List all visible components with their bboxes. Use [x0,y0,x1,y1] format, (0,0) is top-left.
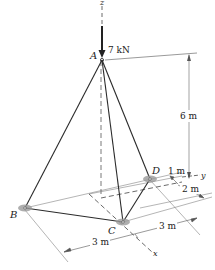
truss-members [25,60,150,222]
load-arrow [99,26,106,58]
member-bc [25,208,123,222]
point-c-label: C [108,225,116,236]
point-a-label: A [89,50,97,61]
d-depth-label: 2 m [182,184,200,194]
y-axis-label: y [200,171,206,180]
member-ab [25,60,102,208]
tripod-diagram: z 7 kN A 6 m x y [0,0,215,270]
span-right-label: 3 m [159,221,177,231]
point-b-label: B [9,209,17,220]
d-offset-label: 1 m [168,166,186,176]
span-left-label: 3 m [92,237,110,247]
x-axis-label: x [153,249,158,258]
point-d-label: D [151,165,160,176]
member-ac [102,60,123,222]
z-axis-label: z [99,0,105,7]
load-label: 7 kN [108,45,130,55]
span-dimension [64,218,197,252]
height-label: 6 m [180,111,198,121]
